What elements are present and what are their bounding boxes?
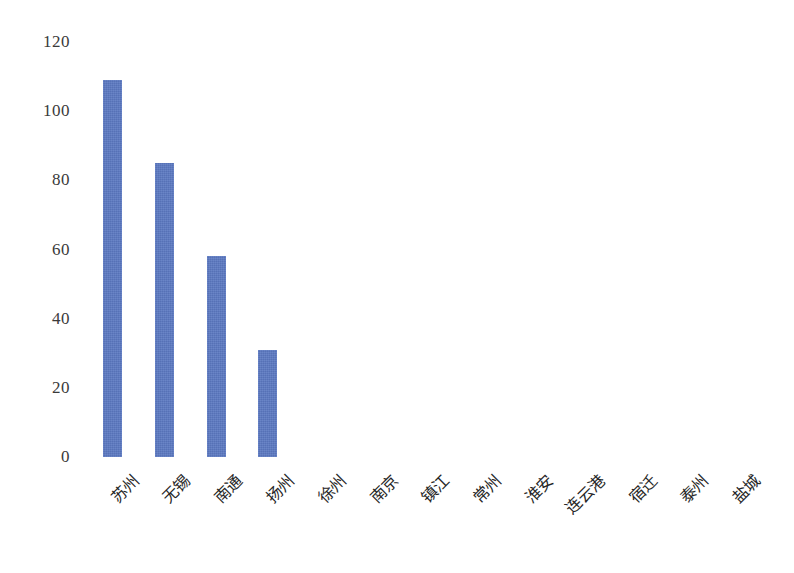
x-axis-tick-label: 淮安 bbox=[518, 468, 558, 508]
x-axis-tick-label: 南通 bbox=[207, 468, 247, 508]
x-axis-tick-label: 徐州 bbox=[311, 468, 351, 508]
plot-area: 020406080100120 苏州无锡南通扬州徐州南京镇江常州淮安连云港宿迁泰… bbox=[0, 0, 794, 573]
x-axis-tick-label-text: 淮安 bbox=[518, 468, 558, 508]
x-axis-tick-label-text: 扬州 bbox=[259, 468, 299, 508]
x-axis-tick-label-text: 宿迁 bbox=[622, 468, 662, 508]
x-axis-tick-label-text: 无锡 bbox=[156, 468, 196, 508]
y-axis-tick-label: 100 bbox=[10, 101, 70, 121]
x-axis-tick-label: 连云港 bbox=[559, 468, 610, 519]
x-axis-tick-label: 宿迁 bbox=[622, 468, 662, 508]
y-axis-tick-label: 80 bbox=[10, 170, 70, 190]
x-axis-tick-label: 泰州 bbox=[674, 468, 714, 508]
y-axis-tick-label: 40 bbox=[10, 309, 70, 329]
x-axis-tick-label-text: 苏州 bbox=[104, 468, 144, 508]
bar bbox=[207, 256, 226, 457]
x-axis-tick-label-text: 泰州 bbox=[674, 468, 714, 508]
x-axis-tick-label-text: 南通 bbox=[207, 468, 247, 508]
x-axis-tick-label-text: 徐州 bbox=[311, 468, 351, 508]
x-axis-tick-label-text: 连云港 bbox=[559, 468, 610, 519]
y-axis-tick-label: 20 bbox=[10, 378, 70, 398]
x-axis-tick-label-text: 南京 bbox=[363, 468, 403, 508]
x-axis-tick-label: 盐城 bbox=[725, 468, 765, 508]
bar bbox=[155, 163, 174, 457]
x-axis-tick-label: 镇江 bbox=[415, 468, 455, 508]
bar bbox=[258, 350, 277, 457]
x-axis-tick-label: 常州 bbox=[466, 468, 506, 508]
x-axis-tick-label-text: 常州 bbox=[466, 468, 506, 508]
y-axis-tick-labels: 020406080100120 bbox=[10, 0, 70, 573]
y-axis-tick-label: 0 bbox=[10, 447, 70, 467]
y-axis-tick-label: 120 bbox=[10, 32, 70, 52]
x-axis-tick-label: 无锡 bbox=[156, 468, 196, 508]
x-axis-tick-label: 扬州 bbox=[259, 468, 299, 508]
x-axis-tick-label: 南京 bbox=[363, 468, 403, 508]
bar-chart: 020406080100120 苏州无锡南通扬州徐州南京镇江常州淮安连云港宿迁泰… bbox=[0, 0, 794, 573]
bar bbox=[103, 80, 122, 457]
x-axis-tick-label: 苏州 bbox=[104, 468, 144, 508]
x-axis-tick-label-text: 盐城 bbox=[725, 468, 765, 508]
y-axis-tick-label: 60 bbox=[10, 240, 70, 260]
x-axis-tick-label-text: 镇江 bbox=[415, 468, 455, 508]
